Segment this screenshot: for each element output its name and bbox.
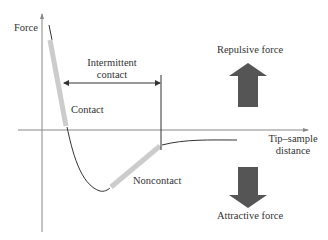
noncontact-label: Noncontact [133,175,181,187]
contact-label: Contact [71,104,104,116]
y-axis-label: Force [14,22,38,34]
x-axis-label-line1: Tip–sample [260,133,326,145]
repulsive-force-arrow-icon [229,63,267,107]
force-distance-diagram [0,0,328,240]
attractive-force-arrow-icon [229,167,267,208]
intermittent-contact-label-line1: Intermittent [76,57,148,69]
repulsive-force-label: Repulsive force [212,44,288,56]
contact-segment-highlight [50,40,66,126]
intermittent-contact-label-line2: contact [76,69,148,81]
attractive-force-label: Attractive force [212,210,288,222]
x-axis-label-line2: distance [260,145,326,157]
